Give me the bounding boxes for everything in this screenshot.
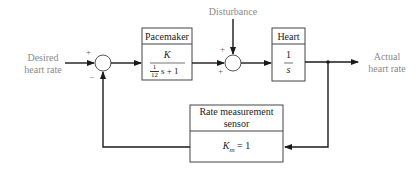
sensor-gain-value: = 1 (237, 140, 250, 151)
output-label-line-1: Actual (362, 51, 412, 63)
summing-junction-1 (95, 55, 111, 71)
output-label: Actual heart rate (362, 51, 412, 75)
sensor-title-line-2: sensor (190, 118, 283, 130)
summing-junction-2 (225, 55, 241, 71)
sensor-gain-subscript: m (229, 146, 234, 154)
heart-title: Heart (272, 31, 305, 43)
disturbance-label: Disturbance (203, 6, 263, 18)
pacemaker-denominator: 1 12 s + 1 (147, 64, 191, 78)
pacemaker-coef-den: 12 (150, 71, 159, 79)
sensor-title: Rate measurement sensor (190, 106, 283, 130)
pacemaker-title: Pacemaker (142, 31, 192, 43)
junction2-plus-top-sign: + (220, 44, 225, 54)
junction2-plus-left-sign: + (218, 66, 223, 76)
heart-numerator: 1 (272, 49, 305, 60)
input-label-line-2: heart rate (20, 64, 66, 76)
feedback-path-left (103, 72, 190, 147)
pacemaker-numerator: K (142, 49, 192, 60)
junction1-plus-sign: + (86, 47, 91, 57)
output-label-line-2: heart rate (362, 63, 412, 75)
input-label-line-1: Desired (20, 52, 66, 64)
junction1-minus-sign: − (89, 72, 94, 82)
input-label: Desired heart rate (20, 52, 66, 76)
sensor-title-line-1: Rate measurement (190, 106, 283, 118)
pacemaker-denominator-rest: s + 1 (161, 66, 179, 76)
heart-denominator: s (272, 64, 305, 75)
pacemaker-coef-num: 1 (150, 64, 159, 71)
sensor-gain: Km = 1 (190, 140, 283, 154)
